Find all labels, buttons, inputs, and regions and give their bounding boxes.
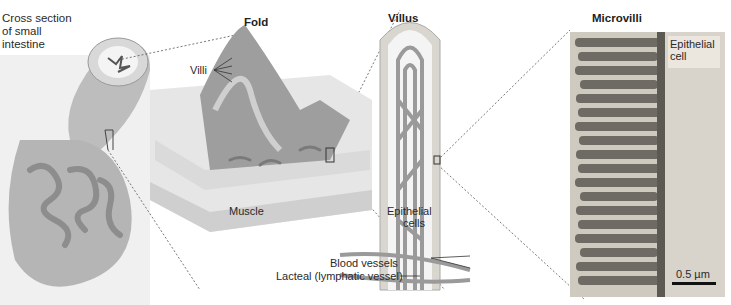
epithelial-cells-label: Epithelial cells <box>387 205 432 229</box>
scale-bar-label: 0.5 µm <box>676 268 710 280</box>
epithelial-cell-label: Epithelial cell <box>670 38 715 62</box>
label-line: Epithelial <box>387 205 432 217</box>
villi-label: Villi <box>190 64 207 76</box>
fold-illustration <box>150 25 372 232</box>
lacteal-label: Lacteal (lymphatic vessel) <box>276 270 403 282</box>
title-line: Cross section <box>2 12 72 25</box>
villus-title: Villus <box>388 12 418 24</box>
microvilli-micrograph <box>570 32 725 297</box>
label-line: Epithelial <box>670 38 715 50</box>
fold-title: Fold <box>244 16 268 28</box>
blood-vessels-label: Blood vessels <box>330 257 398 269</box>
intestine-illustration <box>0 38 150 305</box>
label-line: cells <box>387 217 432 229</box>
cross-section-title: Cross section of small intestine <box>2 12 72 51</box>
microvilli-title: Microvilli <box>592 12 642 24</box>
title-line: intestine <box>2 38 72 51</box>
label-line: cell <box>670 50 715 62</box>
title-line: of small <box>2 25 72 38</box>
muscle-label: Muscle <box>229 205 264 217</box>
